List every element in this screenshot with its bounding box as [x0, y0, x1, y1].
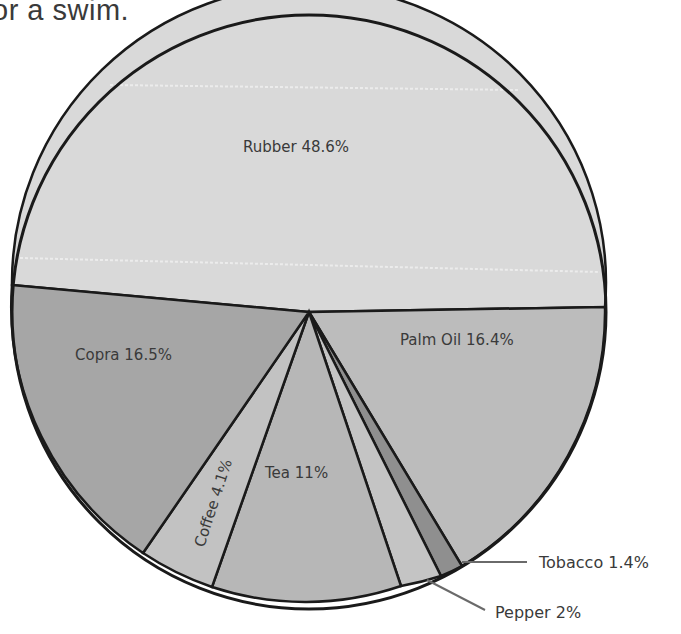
label-tobacco: Tobacco 1.4%	[539, 553, 649, 572]
label-rubber: Rubber 48.6%	[243, 138, 349, 156]
pie-chart: Rubber 48.6% Palm Oil 16.4% Tea 11% Coff…	[0, 0, 681, 634]
slice-rubber	[12, 0, 606, 312]
leader-line-pepper	[427, 580, 485, 610]
label-tea: Tea 11%	[264, 464, 328, 482]
label-copra: Copra 16.5%	[75, 346, 172, 364]
label-pepper: Pepper 2%	[495, 603, 581, 622]
label-palm-oil: Palm Oil 16.4%	[400, 331, 514, 349]
